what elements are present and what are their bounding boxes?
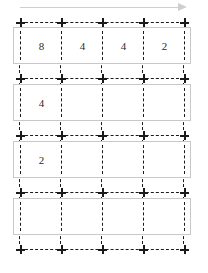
grid-vline — [20, 202, 21, 231]
grid-cross-icon — [98, 131, 107, 140]
grid-cross-icon — [139, 245, 148, 254]
grid-cross-icon — [139, 18, 148, 27]
grid-cell[interactable] — [62, 85, 103, 120]
grid-cell[interactable]: 4 — [62, 28, 103, 63]
grid-vline — [184, 202, 185, 231]
grid-vline — [20, 88, 21, 117]
grid-row-band: 2 — [13, 141, 191, 178]
grid-cell[interactable]: 4 — [21, 85, 62, 120]
grid-vline — [143, 88, 144, 117]
grid-cross-icon — [180, 188, 189, 197]
grid-vline — [102, 145, 103, 174]
diagram-canvas: 844242 — [0, 0, 208, 273]
grid-vline — [20, 145, 21, 174]
grid-cross-icon — [180, 18, 189, 27]
grid-cell[interactable] — [144, 199, 185, 234]
grid-cell[interactable] — [103, 199, 144, 234]
grid-vline — [143, 31, 144, 60]
grid-cross-icon — [16, 74, 25, 83]
grid-cross-icon — [180, 74, 189, 83]
grid-cross-icon — [57, 18, 66, 27]
grid-row-band — [13, 198, 191, 235]
grid-cell[interactable] — [62, 142, 103, 177]
grid-cross-icon — [57, 188, 66, 197]
grid-vline — [20, 31, 21, 60]
grid-row-band: 4 — [13, 84, 191, 121]
grid-vline — [143, 145, 144, 174]
grid-cross-icon — [16, 18, 25, 27]
grid-cross-icon — [139, 131, 148, 140]
grid-cross-icon — [98, 18, 107, 27]
grid-cross-icon — [98, 188, 107, 197]
grid-cross-icon — [139, 188, 148, 197]
grid-cross-icon — [57, 74, 66, 83]
grid-cell[interactable] — [144, 85, 185, 120]
grid-vline — [184, 31, 185, 60]
grid-row-band: 8442 — [13, 27, 191, 64]
grid-cell[interactable]: 4 — [103, 28, 144, 63]
grid-cell[interactable]: 8 — [21, 28, 62, 63]
grid-cross-icon — [16, 131, 25, 140]
grid-vline — [184, 145, 185, 174]
grid-cell[interactable] — [62, 199, 103, 234]
grid-cross-icon — [98, 245, 107, 254]
grid-cell[interactable]: 2 — [21, 142, 62, 177]
grid-cross-icon — [16, 188, 25, 197]
grid-vline — [102, 202, 103, 231]
grid-vline — [61, 88, 62, 117]
grid-cell[interactable] — [21, 199, 62, 234]
grid-vline — [143, 202, 144, 231]
grid-cross-icon — [98, 74, 107, 83]
grid-vline — [102, 88, 103, 117]
grid-cell[interactable] — [144, 142, 185, 177]
grid-cross-icon — [57, 245, 66, 254]
grid-cross-icon — [57, 131, 66, 140]
grid-cell[interactable] — [103, 142, 144, 177]
grid-vline — [184, 88, 185, 117]
grid-vline — [61, 145, 62, 174]
grid-cross-icon — [16, 245, 25, 254]
grid-cell[interactable]: 2 — [144, 28, 185, 63]
grid-cross-icon — [180, 245, 189, 254]
grid-vline — [102, 31, 103, 60]
grid-cross-icon — [139, 74, 148, 83]
grid-cell[interactable] — [103, 85, 144, 120]
grid-cross-icon — [180, 131, 189, 140]
grid: 844242 — [0, 0, 208, 273]
grid-vline — [61, 202, 62, 231]
grid-vline — [61, 31, 62, 60]
